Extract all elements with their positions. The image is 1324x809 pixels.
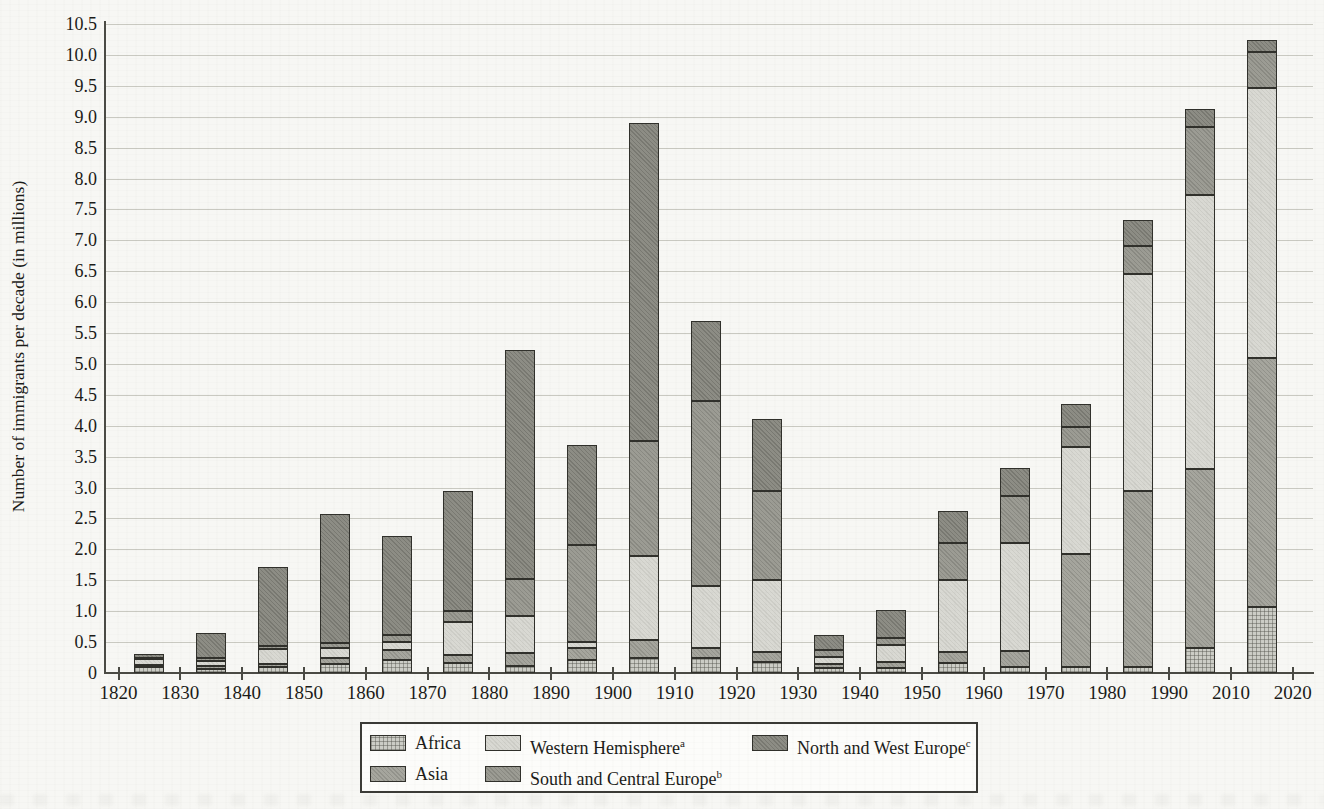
blurred-caption-smudge — [0, 794, 1324, 806]
x-tick-label: 1980 — [1076, 683, 1138, 703]
x-tick-label: 2010 — [1200, 683, 1262, 703]
x-tick-mark — [365, 667, 367, 680]
bar-segment-asia — [752, 652, 782, 662]
bar-segment-north-and-west-europe — [382, 536, 412, 636]
bar-segment-north-and-west-europe — [629, 123, 659, 441]
x-tick-mark — [1168, 667, 1170, 680]
x-tick-mark — [427, 667, 429, 680]
bar-segment-africa — [1123, 667, 1153, 673]
bar-segment-north-and-west-europe — [1000, 468, 1030, 496]
bar-segment-western-hemisphere — [443, 622, 473, 655]
y-tick-label: 7.0 — [43, 230, 97, 250]
x-tick-label: 1870 — [397, 683, 459, 703]
legend: AfricaAsiaWestern HemisphereaSouth and C… — [360, 722, 978, 793]
bar-segment-africa — [382, 660, 412, 673]
bar-segment-asia — [320, 658, 350, 664]
bar-segment-western-hemisphere — [938, 580, 968, 652]
bar-segment-asia — [258, 664, 288, 667]
x-tick-label: 1910 — [644, 683, 706, 703]
immigration-stacked-bar-chart: 10.510.09.59.08.58.07.57.06.56.05.55.04.… — [0, 0, 1324, 809]
bar-segment-africa — [134, 667, 164, 673]
legend-swatch-north-and-west-europe — [752, 735, 788, 751]
bar-segment-asia — [1000, 651, 1030, 666]
bar-segment-africa — [567, 660, 597, 673]
bar-segment-south-and-central-europe — [1061, 427, 1091, 447]
bar-segment-north-and-west-europe — [691, 321, 721, 401]
bar-segment-asia — [1061, 554, 1091, 666]
bar-segment-south-and-central-europe — [567, 545, 597, 642]
bar-segment-north-and-west-europe — [443, 491, 473, 611]
y-tick-label: 8.5 — [43, 138, 97, 158]
y-tick-label: 4.5 — [43, 385, 97, 405]
bar-segment-asia — [876, 662, 906, 668]
bar-segment-north-and-west-europe — [134, 654, 164, 657]
x-tick-label: 1940 — [829, 683, 891, 703]
bar-segment-western-hemisphere — [505, 616, 535, 654]
x-tick-mark — [179, 667, 181, 680]
y-tick-label: 1.5 — [43, 570, 97, 590]
y-tick-label: 3.5 — [43, 447, 97, 467]
bar-segment-asia — [691, 648, 721, 658]
x-tick-label: 1860 — [335, 683, 397, 703]
x-tick-mark — [1292, 667, 1294, 680]
gridline — [105, 209, 1313, 210]
bar-segment-north-and-west-europe — [814, 635, 844, 650]
bar-segment-north-and-west-europe — [1185, 109, 1215, 127]
bar-segment-south-and-central-europe — [629, 441, 659, 555]
y-tick-label: 2.5 — [43, 508, 97, 528]
x-tick-mark — [118, 667, 120, 680]
bar-segment-africa — [320, 664, 350, 673]
x-tick-label: 1970 — [1015, 683, 1077, 703]
bar-segment-asia — [814, 664, 844, 668]
y-tick-label: 9.5 — [43, 76, 97, 96]
bar-segment-south-and-central-europe — [258, 646, 288, 649]
y-tick-label: 8.0 — [43, 169, 97, 189]
x-tick-mark — [674, 667, 676, 680]
bar-segment-western-hemisphere — [876, 645, 906, 662]
bar-segment-western-hemisphere — [382, 642, 412, 650]
bar-segment-western-hemisphere — [196, 661, 226, 666]
x-tick-label: 1900 — [582, 683, 644, 703]
x-tick-mark — [1045, 667, 1047, 680]
y-tick-label: 1.0 — [43, 601, 97, 621]
y-tick-label: 10.0 — [43, 45, 97, 65]
x-tick-mark — [983, 667, 985, 680]
bar-segment-africa — [1185, 648, 1215, 673]
bar-segment-north-and-west-europe — [320, 514, 350, 643]
x-tick-label: 1990 — [1138, 683, 1200, 703]
gridline — [105, 55, 1313, 56]
legend-swatch-south-and-central-europe — [485, 766, 521, 782]
bar-segment-asia — [196, 666, 226, 669]
bar-segment-western-hemisphere — [1061, 447, 1091, 554]
bar-segment-north-and-west-europe — [258, 567, 288, 646]
bar-segment-north-and-west-europe — [1061, 404, 1091, 427]
legend-swatch-western-hemisphere — [485, 735, 521, 751]
gridline — [105, 117, 1313, 118]
bar-segment-south-and-central-europe — [752, 491, 782, 580]
legend-label: Asia — [415, 764, 448, 784]
bar-segment-north-and-west-europe — [505, 350, 535, 579]
bar-segment-africa — [938, 663, 968, 673]
legend-label: North and West Europec — [797, 733, 971, 758]
bar-segment-south-and-central-europe — [443, 611, 473, 623]
bar-segment-south-and-central-europe — [134, 658, 164, 660]
x-tick-mark — [550, 667, 552, 680]
bar-segment-western-hemisphere — [134, 659, 164, 665]
bar-segment-africa — [196, 669, 226, 673]
bar-segment-asia — [1123, 491, 1153, 667]
bar-segment-asia — [629, 640, 659, 657]
bar-segment-africa — [752, 662, 782, 673]
y-tick-label: 6.0 — [43, 292, 97, 312]
bar-segment-africa — [1000, 667, 1030, 673]
x-tick-label: 1830 — [149, 683, 211, 703]
bar-segment-north-and-west-europe — [752, 419, 782, 491]
y-tick-label: 4.0 — [43, 416, 97, 436]
bar-segment-south-and-central-europe — [505, 579, 535, 615]
x-tick-mark — [612, 667, 614, 680]
bar-segment-africa — [258, 667, 288, 673]
bar-segment-south-and-central-europe — [1185, 127, 1215, 195]
x-tick-label: 1840 — [211, 683, 273, 703]
bar-segment-asia — [1185, 469, 1215, 648]
y-tick-label: 5.5 — [43, 323, 97, 343]
bar-segment-asia — [567, 648, 597, 660]
